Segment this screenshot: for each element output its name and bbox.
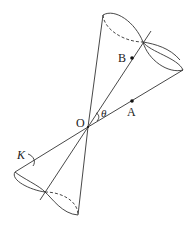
lower-cone-left-generator xyxy=(15,127,88,172)
point-a xyxy=(130,99,134,103)
lower-ellipse-front xyxy=(14,172,78,215)
label-a: A xyxy=(127,105,136,119)
axis-line-upper xyxy=(88,31,151,127)
point-b xyxy=(130,56,134,60)
upper-ellipse-hidden xyxy=(103,15,143,42)
label-o: O xyxy=(76,116,85,130)
label-k: K xyxy=(16,148,26,162)
label-b: B xyxy=(118,51,126,65)
point-o xyxy=(87,126,89,128)
lower-ellipse-hidden xyxy=(45,192,78,215)
k-pointer xyxy=(28,154,34,166)
label-theta: θ xyxy=(101,107,107,119)
upper-ellipse-back-right xyxy=(143,42,180,60)
double-cone-diagram: B A O θ K xyxy=(0,0,194,227)
